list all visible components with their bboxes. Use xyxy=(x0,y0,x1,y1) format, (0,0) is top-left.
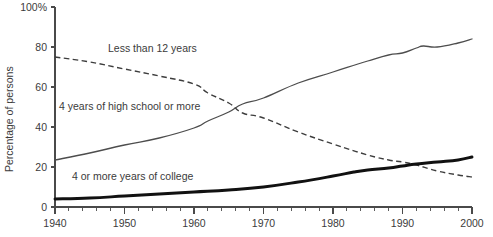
series-label-1: 4 years of high school or more xyxy=(59,100,200,112)
y-tick-label-60: 60 xyxy=(35,81,47,93)
series-label-0: Less than 12 years xyxy=(108,42,197,54)
x-tick-label-1950: 1950 xyxy=(113,217,137,229)
series-label-2: 4 or more years of college xyxy=(72,170,194,182)
x-tick-label-1980: 1980 xyxy=(321,217,345,229)
y-tick-label-80: 80 xyxy=(35,41,47,53)
x-axis-major-ticks xyxy=(55,207,472,214)
y-tick-label-0: 0 xyxy=(41,201,47,213)
x-tick-label-1940: 1940 xyxy=(43,217,67,229)
x-tick-label-1970: 1970 xyxy=(252,217,276,229)
y-tick-label-20: 20 xyxy=(35,161,47,173)
education-attainment-chart: 020406080100% 19401950196019701980199020… xyxy=(0,0,493,237)
x-tick-label-1990: 1990 xyxy=(391,217,415,229)
y-axis-ticks xyxy=(51,7,55,207)
y-tick-label-100: 100% xyxy=(20,1,47,13)
x-tick-label-1960: 1960 xyxy=(182,217,206,229)
x-tick-label-2000: 2000 xyxy=(460,217,484,229)
series-annotations: Less than 12 years4 years of high school… xyxy=(59,42,200,182)
series-line-0 xyxy=(55,57,472,177)
x-axis-tick-labels: 1940195019601970198019902000 xyxy=(43,217,484,229)
y-tick-label-40: 40 xyxy=(35,121,47,133)
y-axis-tick-labels: 020406080100% xyxy=(20,1,47,213)
y-axis-title: Percentage of persons xyxy=(3,66,15,172)
chart-canvas: 020406080100% 19401950196019701980199020… xyxy=(0,0,493,237)
